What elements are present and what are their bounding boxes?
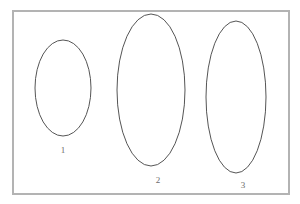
figure-drawing-area bbox=[0, 0, 300, 204]
ellipse-3-label: 3 bbox=[234, 181, 252, 190]
ellipse-2-label: 2 bbox=[149, 176, 167, 185]
figure-background bbox=[0, 0, 300, 204]
ellipse-1-label: 1 bbox=[54, 146, 72, 155]
figure-container: 1 2 3 bbox=[0, 0, 300, 204]
